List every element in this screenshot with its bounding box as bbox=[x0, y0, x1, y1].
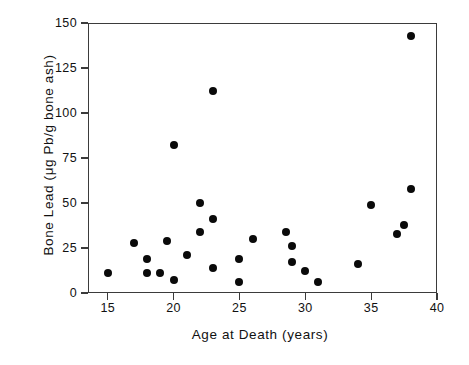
data-point bbox=[196, 199, 204, 207]
y-tick-label: 0 bbox=[17, 286, 77, 300]
data-point bbox=[209, 264, 217, 272]
scatter-plot-figure: Bone Lead (μg Pb/g bone ash) 02550751001… bbox=[0, 0, 469, 365]
data-point bbox=[367, 201, 375, 209]
x-tick-mark bbox=[436, 293, 437, 300]
x-tick-mark bbox=[173, 293, 174, 300]
data-point bbox=[183, 251, 191, 259]
y-tick-mark bbox=[81, 292, 88, 293]
x-tick-label: 25 bbox=[219, 301, 259, 315]
y-tick-label: 125 bbox=[17, 61, 77, 75]
data-point bbox=[170, 141, 178, 149]
data-point bbox=[288, 258, 296, 266]
y-tick-mark bbox=[81, 22, 88, 23]
data-point bbox=[407, 185, 415, 193]
data-point bbox=[170, 276, 178, 284]
data-point bbox=[393, 230, 401, 238]
y-tick-mark bbox=[81, 247, 88, 248]
plot-data-area bbox=[88, 23, 437, 293]
y-tick-label: 150 bbox=[17, 16, 77, 30]
data-point bbox=[282, 228, 290, 236]
data-point bbox=[235, 255, 243, 263]
y-tick-label: 75 bbox=[17, 151, 77, 165]
data-point bbox=[104, 269, 112, 277]
x-tick-mark bbox=[305, 293, 306, 300]
data-point bbox=[196, 228, 204, 236]
x-tick-mark bbox=[239, 293, 240, 300]
data-point bbox=[209, 87, 217, 95]
x-tick-label: 40 bbox=[417, 301, 457, 315]
y-tick-mark bbox=[81, 112, 88, 113]
data-point bbox=[249, 235, 257, 243]
y-tick-mark bbox=[81, 157, 88, 158]
data-point bbox=[209, 215, 217, 223]
y-tick-label: 50 bbox=[17, 196, 77, 210]
y-tick-label: 25 bbox=[17, 241, 77, 255]
y-tick-mark bbox=[81, 67, 88, 68]
x-tick-mark bbox=[371, 293, 372, 300]
data-point bbox=[163, 237, 171, 245]
y-tick-label: 100 bbox=[17, 106, 77, 120]
data-point bbox=[407, 32, 415, 40]
data-point bbox=[288, 242, 296, 250]
x-tick-mark bbox=[107, 293, 108, 300]
x-tick-label: 35 bbox=[351, 301, 391, 315]
data-point bbox=[354, 260, 362, 268]
data-point bbox=[314, 278, 322, 286]
data-point bbox=[143, 255, 151, 263]
x-tick-label: 30 bbox=[285, 301, 325, 315]
x-tick-label: 20 bbox=[154, 301, 194, 315]
data-point bbox=[301, 267, 309, 275]
data-point bbox=[130, 239, 138, 247]
data-point bbox=[156, 269, 164, 277]
data-point bbox=[143, 269, 151, 277]
x-axis-label: Age at Death (years) bbox=[60, 327, 460, 342]
data-point bbox=[235, 278, 243, 286]
x-tick-label: 15 bbox=[88, 301, 128, 315]
y-tick-mark bbox=[81, 202, 88, 203]
data-point bbox=[400, 221, 408, 229]
